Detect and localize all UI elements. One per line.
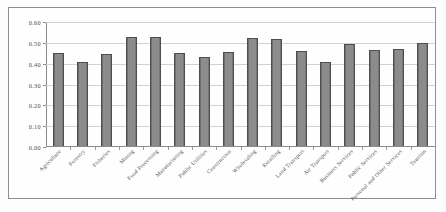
x-tick-label: Fisheries	[91, 148, 111, 168]
bar	[174, 53, 185, 146]
bar	[126, 37, 137, 146]
bar-slot	[411, 22, 435, 146]
bar	[369, 50, 380, 146]
x-tick-label: Personal and Other Services	[349, 148, 403, 202]
bar-slot	[362, 22, 386, 146]
y-tick-label: 0.10	[29, 123, 41, 130]
bar	[417, 43, 428, 146]
x-tick-label: Mining	[118, 148, 135, 165]
bar-slot	[338, 22, 362, 146]
bar-slot	[313, 22, 337, 146]
y-tick-label: 0.30	[29, 81, 41, 88]
bar	[150, 37, 161, 146]
bar-slot	[216, 22, 240, 146]
bar-slot	[192, 22, 216, 146]
bar	[296, 51, 307, 146]
x-tick-label: Retailing	[261, 148, 281, 168]
bar-slot	[168, 22, 192, 146]
bar	[77, 62, 88, 146]
bar	[320, 62, 331, 146]
y-tick-label: 0.60	[29, 19, 41, 26]
bar-slot	[386, 22, 410, 146]
bar	[247, 38, 258, 146]
y-tick-label: 0.50	[29, 39, 41, 46]
bar	[393, 49, 404, 146]
chart-screenshot: 0.600.500.400.300.200.100.00 Agriculture…	[0, 0, 446, 212]
bar	[344, 44, 355, 146]
bar-slot	[289, 22, 313, 146]
y-tick-label: 0.40	[29, 60, 41, 67]
x-tick-label: Construction	[206, 148, 233, 175]
bar	[53, 53, 64, 146]
bar	[199, 57, 210, 146]
bar-series	[46, 22, 435, 146]
chart-frame: 0.600.500.400.300.200.100.00 Agriculture…	[8, 7, 436, 199]
bar-slot	[265, 22, 289, 146]
bar-slot	[241, 22, 265, 146]
y-tick-label: 0.00	[29, 144, 41, 151]
bar	[223, 52, 234, 146]
x-axis-labels: AgricultureForestryFisheriesMiningFood P…	[46, 148, 435, 208]
plot-area: 0.600.500.400.300.200.100.00	[46, 22, 435, 147]
bar-slot	[46, 22, 70, 146]
bar-slot	[95, 22, 119, 146]
bar-slot	[143, 22, 167, 146]
x-tick-mark	[435, 147, 436, 150]
bar	[271, 39, 282, 146]
bar-slot	[70, 22, 94, 146]
x-tick-label: Tourism	[408, 148, 427, 167]
y-tick-label: 0.20	[29, 102, 41, 109]
bar-slot	[119, 22, 143, 146]
x-tick-label: Agriculture	[38, 148, 62, 172]
bar	[101, 54, 112, 146]
x-tick-label: Forestry	[68, 148, 87, 167]
x-tick-label: Wholesaling	[231, 148, 257, 174]
